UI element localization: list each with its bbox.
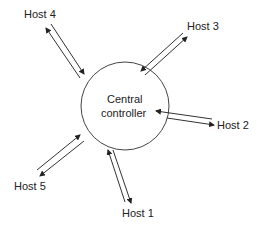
arrow-from-host-1	[108, 150, 125, 202]
arrow-to-host-1	[113, 150, 131, 203]
arrow-from-host-5	[37, 135, 80, 170]
arrow-to-host-3	[145, 37, 187, 75]
arrow-to-host-4	[46, 28, 80, 78]
arrow-to-host-5	[40, 141, 84, 176]
host-4-link: Host 4	[24, 8, 84, 78]
arrow-from-host-3	[141, 33, 183, 71]
host-5-label: Host 5	[14, 180, 46, 192]
controller-circle	[81, 62, 169, 150]
host-5-link: Host 5	[14, 135, 84, 192]
host-1-label: Host 1	[122, 207, 154, 219]
host-3-link: Host 3	[141, 20, 219, 75]
host-3-label: Host 3	[187, 20, 219, 32]
host-2-link: Host 2	[156, 111, 249, 131]
controller-label-line2: controller	[101, 107, 147, 119]
arrow-from-host-4	[51, 24, 84, 74]
star-topology-diagram: Central controller Host 4 Host 3 Host 2 …	[0, 0, 257, 232]
central-controller-node: Central controller	[81, 62, 169, 150]
arrow-to-host-2	[167, 118, 214, 125]
host-4-label: Host 4	[24, 8, 56, 20]
host-1-link: Host 1	[108, 150, 154, 219]
host-2-label: Host 2	[217, 119, 249, 131]
controller-label-line1: Central	[107, 93, 142, 105]
